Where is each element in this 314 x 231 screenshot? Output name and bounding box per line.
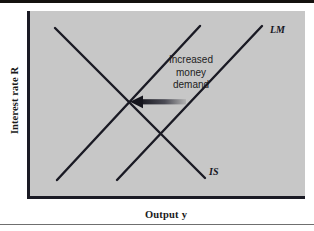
shift-arrow-icon [130,95,186,108]
annotation-line-2: money [150,67,232,80]
curve-label-is: IS [209,166,218,177]
annotation-line-3: demand [150,79,232,92]
curve-label-lm: LM [270,24,285,35]
top-band-divider [0,0,314,3]
isl-m-figure: LM IS Increased money demand Interest ra… [0,0,314,231]
plot-curves-svg [27,11,305,199]
x-axis-label: Output y [27,209,305,220]
annotation-line-1: Increased [150,54,232,67]
bottom-rule-divider [0,224,314,225]
annotation-increased-money-demand: Increased money demand [150,54,232,92]
y-axis-label: Interest rate R [9,51,20,151]
